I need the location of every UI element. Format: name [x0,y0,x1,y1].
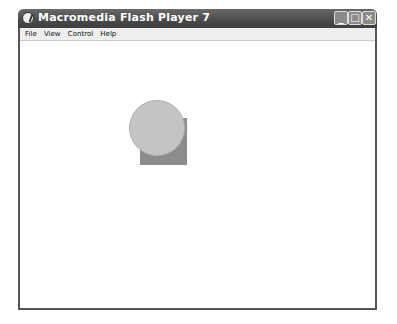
minimize-button[interactable]: _ [334,11,348,25]
close-button[interactable]: ✕ [362,11,376,25]
flash-app-icon [22,12,34,24]
menu-file[interactable]: File [25,28,37,40]
menu-control[interactable]: Control [68,28,93,40]
menu-view[interactable]: View [44,28,61,40]
title-bar[interactable]: Macromedia Flash Player 7 _ □ ✕ [18,9,377,28]
maximize-button[interactable]: □ [348,11,362,25]
flash-stage[interactable] [20,41,375,308]
window-title: Macromedia Flash Player 7 [38,11,210,24]
flash-player-window: Macromedia Flash Player 7 _ □ ✕ File Vie… [18,9,377,310]
menu-bar: File View Control Help [20,28,375,41]
menu-help[interactable]: Help [100,28,116,40]
gray-circle-shape [129,100,185,156]
